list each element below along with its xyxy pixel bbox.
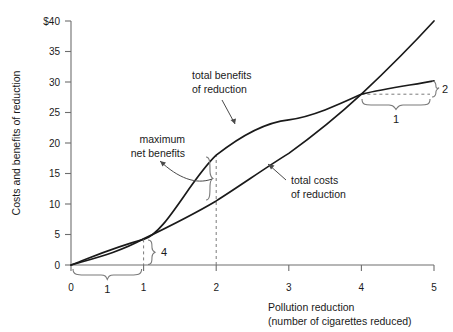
x-tick-label-5: 5 [431,282,437,293]
brace-x-origin-label: 1 [104,283,110,295]
x-tick-label-4: 4 [359,282,365,293]
brace-right-vertical-label: 2 [442,83,448,95]
maximum-net-benefits-line1: maximum [139,133,185,145]
y-tick-label-15: 15 [49,168,61,179]
y-tick-label-40: $40 [43,16,60,27]
x-tick-label-0: 0 [68,282,74,293]
maximum-net-benefits-label: maximum net benefits [131,133,186,159]
total-benefits-line1: total benefits [192,69,252,81]
brace-x-origin: 1 [73,269,142,295]
total-benefits-annotation: total benefits of reduction [192,69,252,124]
y-tick-label-35: 35 [49,46,61,57]
x-axis-title-line2: (number of cigarettes reduced) [268,315,412,327]
total-benefits-line2: of reduction [192,83,247,95]
total-costs-line2: of reduction [291,188,346,200]
x-tick-label-2: 2 [213,282,219,293]
brace-benefit-at-one-shape [148,240,155,265]
total-costs-label: total costs of reduction [291,174,346,200]
total-benefits-arrow-head [231,119,237,125]
y-tick-label-30: 30 [49,77,61,88]
total-costs-line1: total costs [291,174,338,186]
chart-container: 0 5 10 15 20 25 30 35 $40 0 1 2 3 4 5 Co… [0,0,453,332]
brace-right-vertical-shape [432,81,439,97]
brace-right-vertical: 2 [432,81,448,97]
maximum-net-benefits-brace-shape [206,157,213,200]
x-axis-tick-labels: 0 1 2 3 4 5 [68,282,437,293]
x-axis-title-line1: Pollution reduction [268,301,355,313]
y-tick-label-25: 25 [49,107,61,118]
axes: 0 5 10 15 20 25 30 35 $40 0 1 2 3 4 5 [43,16,437,294]
total-benefits-curve [71,81,434,265]
y-tick-label-20: 20 [49,138,61,149]
x-tick-label-1: 1 [141,282,147,293]
maximum-net-benefits-line2: net benefits [131,147,185,159]
x-axis-ticks [71,265,434,271]
maximum-net-benefits-arrow-line [160,161,212,181]
brace-right-horizontal-label: 1 [393,113,399,125]
total-costs-curve [71,21,434,265]
y-axis-tick-labels: 0 5 10 15 20 25 30 35 $40 [43,16,60,271]
total-benefits-label: total benefits of reduction [192,69,252,95]
total-costs-annotation: total costs of reduction [268,164,346,200]
y-axis-ticks [65,21,71,265]
brace-right-horizontal: 1 [362,99,430,125]
y-tick-label-0: 0 [54,260,60,271]
y-tick-label-5: 5 [54,229,60,240]
x-axis-title: Pollution reduction (number of cigarette… [268,301,412,327]
x-tick-label-3: 3 [286,282,292,293]
brace-x-origin-shape [73,269,142,280]
brace-benefit-at-one-label: 4 [161,246,167,258]
maximum-net-benefits-brace: maximum net benefits [131,133,213,200]
y-axis-title: Costs and benefits of reduction [10,70,22,215]
cost-benefit-chart: 0 5 10 15 20 25 30 35 $40 0 1 2 3 4 5 Co… [0,0,453,332]
brace-benefit-at-one: 4 [144,239,168,265]
y-tick-label-10: 10 [49,199,61,210]
brace-right-horizontal-shape [362,99,430,110]
